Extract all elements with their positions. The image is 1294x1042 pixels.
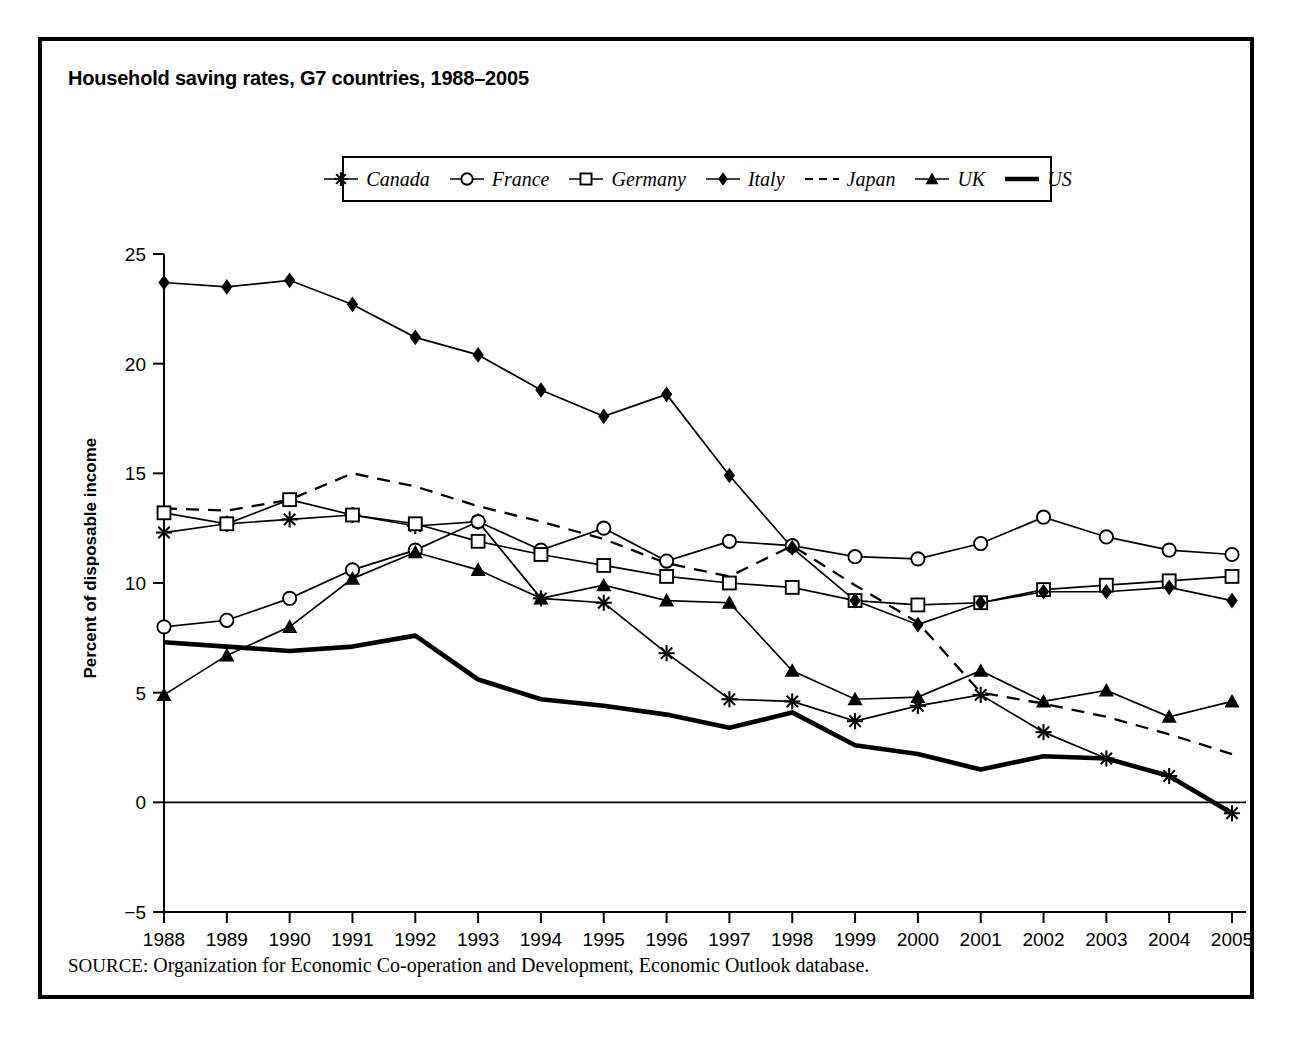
open-square-marker	[283, 493, 296, 506]
filled-diamond-marker	[1226, 593, 1237, 609]
filled-diamond-marker	[472, 347, 483, 363]
filled-diamond-marker	[221, 279, 232, 295]
filled-diamond-marker	[284, 272, 295, 288]
series-markers-germany	[158, 493, 1239, 611]
asterisk-marker	[784, 693, 800, 709]
x-tick-label: 1996	[645, 929, 687, 950]
series-markers-italy	[158, 272, 1237, 632]
series-line-germany	[164, 500, 1232, 605]
y-tick-label: 5	[135, 683, 146, 704]
filled-triangle-marker	[596, 578, 611, 592]
x-tick-label: 1995	[583, 929, 625, 950]
asterisk-marker	[596, 595, 612, 611]
filled-triangle-marker	[1099, 683, 1114, 697]
series-markers-canada	[156, 507, 1240, 821]
figure-frame: Household saving rates, G7 countries, 19…	[38, 37, 1254, 999]
filled-triangle-marker	[156, 687, 171, 701]
x-tick-label: 1994	[520, 929, 563, 950]
filled-triangle-marker	[910, 689, 925, 703]
open-circle-marker	[848, 550, 861, 563]
y-tick-label: 10	[125, 573, 146, 594]
open-circle-marker	[1100, 530, 1113, 543]
open-circle-marker	[723, 535, 736, 548]
open-circle-marker	[220, 614, 233, 627]
open-square-marker	[786, 581, 799, 594]
asterisk-marker	[156, 525, 172, 541]
open-circle-marker	[974, 537, 987, 550]
y-tick-label: 25	[125, 244, 146, 265]
asterisk-marker	[1098, 750, 1114, 766]
series-line-france	[164, 517, 1232, 627]
x-tick-label: 1992	[394, 929, 436, 950]
filled-diamond-marker	[598, 408, 609, 424]
source-note: SOURCE: Organization for Economic Co-ope…	[68, 954, 869, 977]
open-square-marker	[723, 577, 736, 590]
open-square-marker	[597, 559, 610, 572]
x-tick-label: 2004	[1148, 929, 1191, 950]
x-tick-label: 2000	[897, 929, 939, 950]
open-circle-marker	[660, 554, 673, 567]
chart-plot-area: 2520151050−5Percent of disposable income…	[42, 41, 1258, 1003]
filled-diamond-marker	[347, 297, 358, 313]
open-circle-marker	[1225, 548, 1238, 561]
asterisk-marker	[1035, 724, 1051, 740]
x-tick-label: 2003	[1085, 929, 1127, 950]
series-line-japan	[164, 473, 1232, 754]
asterisk-marker	[1224, 805, 1240, 821]
asterisk-marker	[973, 687, 989, 703]
open-square-marker	[535, 548, 548, 561]
source-label: SOURCE:	[68, 955, 148, 976]
x-tick-label: 1993	[457, 929, 499, 950]
x-tick-label: 1997	[708, 929, 750, 950]
y-axis-title: Percent of disposable income	[81, 438, 100, 679]
asterisk-marker	[721, 691, 737, 707]
filled-triangle-marker	[1224, 694, 1239, 708]
open-square-marker	[1226, 570, 1239, 583]
open-square-marker	[409, 517, 422, 530]
series-line-us	[164, 636, 1232, 814]
x-tick-label: 1999	[834, 929, 876, 950]
open-square-marker	[158, 506, 171, 519]
marker-layer	[156, 272, 1240, 821]
asterisk-marker	[847, 713, 863, 729]
x-tick-label: 1998	[771, 929, 813, 950]
y-tick-label: 0	[135, 792, 146, 813]
asterisk-marker	[282, 511, 298, 527]
series-markers-france	[157, 511, 1238, 634]
open-circle-marker	[1163, 543, 1176, 556]
series-line-italy	[164, 280, 1232, 624]
open-square-marker	[346, 509, 359, 522]
filled-triangle-marker	[973, 663, 988, 677]
filled-triangle-marker	[219, 648, 234, 662]
series-line-canada	[164, 515, 1232, 813]
open-circle-marker	[597, 522, 610, 535]
open-circle-marker	[1037, 511, 1050, 524]
x-tick-label: 2001	[960, 929, 1002, 950]
x-tick-label: 2005	[1211, 929, 1253, 950]
filled-diamond-marker	[410, 330, 421, 346]
x-tick-label: 1990	[269, 929, 311, 950]
open-circle-marker	[157, 620, 170, 633]
open-circle-marker	[911, 552, 924, 565]
filled-diamond-marker	[158, 275, 169, 291]
filled-diamond-marker	[535, 382, 546, 398]
x-tick-label: 1989	[206, 929, 248, 950]
asterisk-marker	[1161, 768, 1177, 784]
series-line-uk	[164, 552, 1232, 717]
open-square-marker	[660, 570, 673, 583]
open-circle-marker	[283, 592, 296, 605]
open-square-marker	[911, 598, 924, 611]
x-tick-label: 1991	[331, 929, 373, 950]
filled-triangle-marker	[282, 619, 297, 633]
open-circle-marker	[471, 515, 484, 528]
x-tick-label: 2002	[1022, 929, 1064, 950]
y-tick-label: 20	[125, 354, 146, 375]
source-text: Organization for Economic Co-operation a…	[153, 954, 869, 976]
asterisk-marker	[659, 645, 675, 661]
open-square-marker	[220, 517, 233, 530]
y-tick-label: 15	[125, 463, 146, 484]
x-tick-label: 1988	[143, 929, 185, 950]
y-tick-label: −5	[124, 902, 146, 923]
open-square-marker	[472, 535, 485, 548]
